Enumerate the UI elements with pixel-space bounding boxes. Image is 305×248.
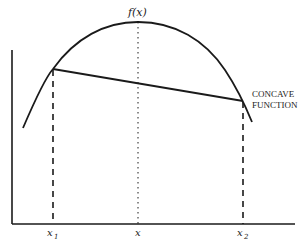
x1-tick-subscript: 1 xyxy=(54,233,58,241)
x2-tick-label: x xyxy=(237,227,243,238)
x-tick-label: x xyxy=(135,227,141,238)
x1-tick-label: x xyxy=(47,227,53,238)
x2-tick-subscript: 2 xyxy=(243,233,249,241)
concave-function-diagram: f(x) CONCAVE FUNCTION x 1 x x 2 xyxy=(0,0,305,248)
chord-line xyxy=(53,69,243,101)
fx-label: f(x) xyxy=(127,6,147,19)
concave-label-line2: FUNCTION xyxy=(252,100,298,110)
concave-label-line1: CONCAVE xyxy=(252,89,295,99)
